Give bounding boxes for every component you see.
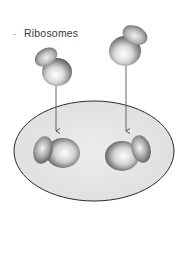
ribosome-free-right-icon [109,21,151,66]
ribosome-free-left-icon [31,44,72,86]
ribosomes-label: Ribosomes [24,27,78,39]
label-bullet [13,34,16,35]
